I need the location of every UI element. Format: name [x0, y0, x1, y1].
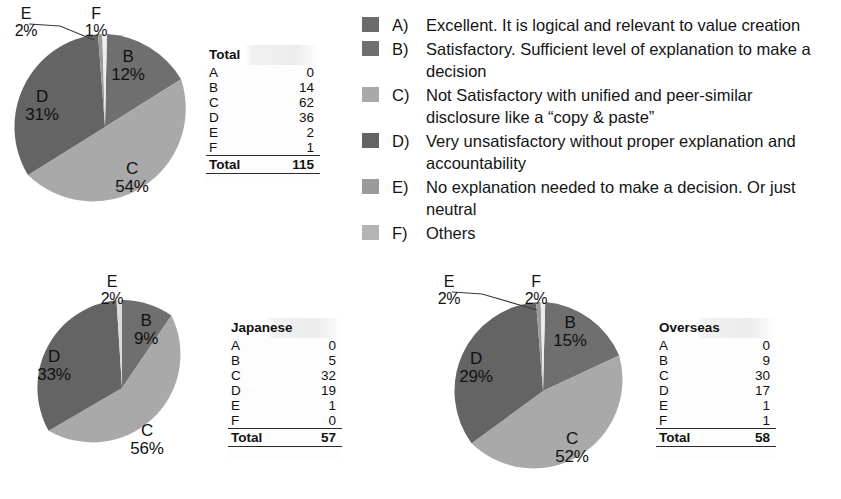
total-value: 58	[745, 429, 776, 447]
pie-label-B: B12%	[108, 48, 148, 83]
legend-swatch-F-icon	[362, 225, 379, 240]
row-value: 36	[269, 110, 320, 125]
pie-label-C: C54%	[108, 160, 156, 195]
row-value: 1	[313, 398, 342, 413]
row-value: 0	[269, 65, 320, 80]
legend-label-A: Excellent. It is logical and relevant to…	[426, 14, 800, 37]
row-label: F	[206, 140, 269, 156]
row-value: 1	[745, 398, 776, 413]
pie-label-B: B15%	[548, 314, 592, 349]
row-label: E	[656, 398, 745, 413]
row-label: F	[656, 413, 745, 429]
table-japanese-body: Japanese A 0 B 5 C 32 D 19 E 1 F 0 Total	[228, 318, 342, 447]
table-total-row: Total 57	[228, 429, 342, 447]
table-row: F 0	[228, 413, 342, 429]
row-label: D	[206, 110, 269, 125]
table-row: A 0	[228, 338, 342, 353]
row-value: 2	[269, 125, 320, 140]
legend-swatch-E-icon	[362, 179, 379, 194]
legend-item-F: F) Others	[362, 222, 840, 245]
table-row: A 0	[206, 65, 320, 80]
legend: A) Excellent. It is logical and relevant…	[362, 14, 840, 245]
total-label: Total	[206, 156, 269, 174]
legend-item-B: B) Satisfactory. Sufficient level of exp…	[362, 38, 840, 83]
table-header-label: Total	[206, 45, 269, 65]
row-label: B	[228, 353, 313, 368]
legend-key-A: A)	[392, 14, 426, 37]
table-row: E 1	[656, 398, 776, 413]
legend-label-F: Others	[426, 222, 476, 245]
table-header-value	[269, 45, 320, 65]
chart-panel-overseas: E2% F2% B15% D29% C52%	[420, 272, 655, 497]
legend-label-B: Satisfactory. Sufficient level of explan…	[426, 38, 830, 83]
legend-key-B: B)	[392, 38, 426, 61]
row-label: A	[206, 65, 269, 80]
pie-label-B: B9%	[126, 312, 166, 347]
row-label: B	[656, 353, 745, 368]
table-row: F 1	[656, 413, 776, 429]
legend-label-D: Very unsatisfactory without proper expla…	[426, 130, 830, 175]
row-label: C	[656, 368, 745, 383]
table-header-value	[745, 318, 776, 338]
legend-key-E: E)	[392, 176, 426, 199]
pie-label-F: F1%	[78, 6, 114, 40]
table-row: B 9	[656, 353, 776, 368]
row-value: 1	[269, 140, 320, 156]
row-label: C	[206, 95, 269, 110]
row-value: 5	[313, 353, 342, 368]
table-row: E 1	[228, 398, 342, 413]
row-value: 14	[269, 80, 320, 95]
pie-chart-japanese	[32, 298, 212, 478]
row-label: C	[228, 368, 313, 383]
pie-label-D: D31%	[18, 88, 66, 123]
table-header-value	[313, 318, 342, 338]
pie-label-C: C52%	[548, 430, 596, 465]
legend-label-E: No explanation needed to make a decision…	[426, 176, 830, 221]
row-value: 0	[745, 338, 776, 353]
table-total-row: Total 115	[206, 156, 320, 174]
table-row: A 0	[656, 338, 776, 353]
pie-label-E: E2%	[431, 274, 467, 308]
table-overseas-body: Overseas A 0 B 9 C 30 D 17 E 1 F 1 Total	[656, 318, 776, 447]
table-overseas: Overseas A 0 B 9 C 30 D 17 E 1 F 1 Total	[656, 318, 776, 447]
table-row: D 17	[656, 383, 776, 398]
row-label: A	[656, 338, 745, 353]
pie-label-F: F2%	[518, 274, 554, 308]
table-row: E 2	[206, 125, 320, 140]
table-header-row: Overseas	[656, 318, 776, 338]
total-label: Total	[228, 429, 313, 447]
pie-label-E-key: E	[21, 5, 31, 22]
table-row: F 1	[206, 140, 320, 156]
table-row: B 5	[228, 353, 342, 368]
row-label: B	[206, 80, 269, 95]
pie-label-D: D29%	[452, 350, 500, 385]
row-label: E	[228, 398, 313, 413]
table-row: C 32	[228, 368, 342, 383]
legend-key-C: C)	[392, 84, 426, 107]
legend-key-F: F)	[392, 222, 426, 245]
pie-chart-total	[10, 32, 200, 222]
legend-item-C: C) Not Satisfactory with unified and pee…	[362, 84, 840, 129]
row-label: D	[656, 383, 745, 398]
row-value: 9	[745, 353, 776, 368]
chart-panel-japanese: E2% B9% D33% C56%	[18, 272, 233, 497]
table-header-label: Overseas	[656, 318, 745, 338]
table-header-row: Japanese	[228, 318, 342, 338]
pie-label-F-pct: 1%	[85, 22, 108, 39]
row-label: E	[206, 125, 269, 140]
row-value: 62	[269, 95, 320, 110]
row-value: 19	[313, 383, 342, 398]
table-row: B 14	[206, 80, 320, 95]
legend-key-D: D)	[392, 130, 426, 153]
legend-item-D: D) Very unsatisfactory without proper ex…	[362, 130, 840, 175]
pie-label-E: E2%	[94, 274, 130, 308]
table-row: C 30	[656, 368, 776, 383]
legend-swatch-D-icon	[362, 133, 379, 148]
pie-label-F-key: F	[91, 5, 101, 22]
legend-item-E: E) No explanation needed to make a decis…	[362, 176, 840, 221]
pie-label-C: C56%	[123, 422, 171, 457]
table-header-row: Total	[206, 45, 320, 65]
legend-item-A: A) Excellent. It is logical and relevant…	[362, 14, 840, 37]
table-header-label: Japanese	[228, 318, 313, 338]
row-value: 0	[313, 338, 342, 353]
